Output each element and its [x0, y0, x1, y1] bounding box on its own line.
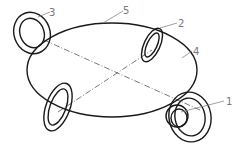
diagram-drawing	[0, 0, 239, 146]
small-ring-1-inner	[171, 109, 187, 127]
ring-3-inner	[16, 15, 49, 51]
ring-1-outer	[165, 89, 215, 146]
label-1: 1	[226, 97, 232, 107]
label-5: 5	[123, 6, 129, 16]
label-2: 2	[178, 19, 184, 29]
diagram-canvas: 3 5 2 4 1	[0, 0, 239, 146]
leader-line-5	[103, 11, 123, 23]
ring-1-inner	[172, 96, 208, 139]
leader-line-2	[160, 23, 177, 28]
label-3: 3	[49, 8, 55, 18]
ring-2-inner	[142, 31, 162, 59]
leader-line-4	[182, 51, 192, 58]
label-4: 4	[193, 47, 199, 57]
ring-2-outer	[137, 25, 167, 64]
leader-line-1	[181, 101, 224, 112]
